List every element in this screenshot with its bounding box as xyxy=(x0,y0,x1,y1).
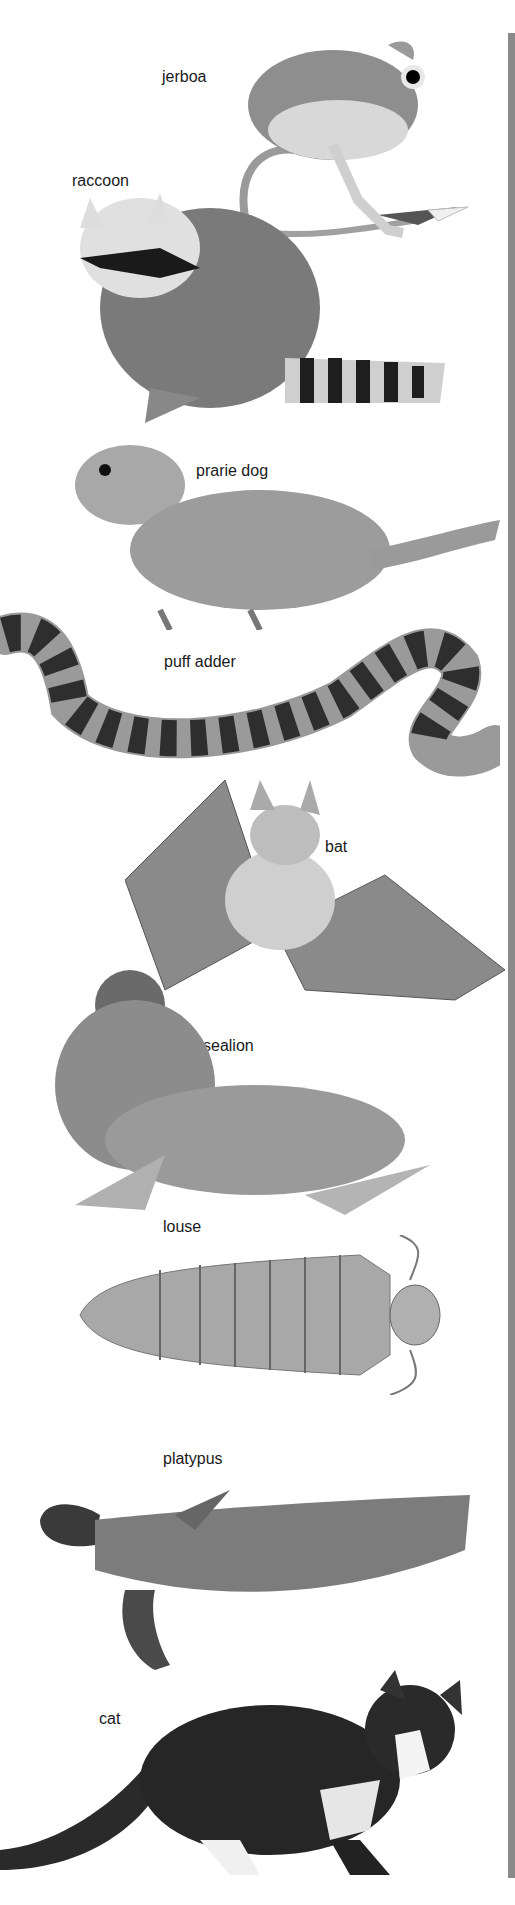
label-platypus: platypus xyxy=(163,1450,223,1468)
raccoon-illustration xyxy=(60,188,460,428)
label-jerboa: jerboa xyxy=(162,68,206,86)
puff-adder-illustration xyxy=(0,605,500,785)
frame-edge-bar xyxy=(508,33,515,1878)
cat-illustration xyxy=(0,1670,470,1885)
label-louse: louse xyxy=(163,1218,201,1236)
prairie-dog-illustration xyxy=(70,440,500,630)
louse-illustration xyxy=(60,1235,460,1395)
sealion-illustration xyxy=(55,965,430,1215)
platypus-illustration xyxy=(35,1490,475,1675)
